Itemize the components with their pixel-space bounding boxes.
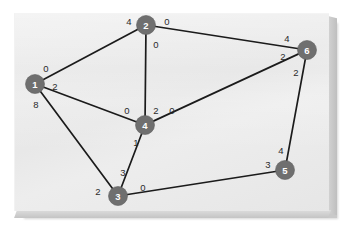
panel-sheen-overlay bbox=[15, 14, 329, 211]
panel-bottom-bevel bbox=[14, 210, 331, 218]
graph-panel bbox=[14, 13, 329, 211]
graph-figure: 040402208231022403 123456 bbox=[0, 0, 351, 230]
panel-right-bevel bbox=[328, 16, 337, 215]
